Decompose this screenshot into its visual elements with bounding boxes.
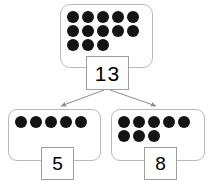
dot: [15, 116, 27, 128]
dot: [75, 116, 87, 128]
dot: [127, 25, 139, 37]
dot: [112, 11, 124, 23]
whole-number-label: 13: [86, 56, 129, 90]
dot: [178, 116, 190, 128]
whole-dot-grid: [61, 5, 152, 53]
part-right-dot-grid: [112, 110, 204, 144]
dot: [97, 25, 109, 37]
dot: [112, 25, 124, 37]
dot-row: [67, 39, 152, 51]
dot: [148, 130, 160, 142]
part-left-dot-grid: [9, 110, 100, 130]
dot: [82, 11, 94, 23]
dot: [67, 25, 79, 37]
dot: [67, 39, 79, 51]
dot: [45, 116, 57, 128]
dot: [60, 116, 72, 128]
dot-row: [118, 130, 204, 142]
dot-row: [67, 11, 152, 23]
dot: [118, 116, 130, 128]
dot: [133, 130, 145, 142]
dot-row: [118, 116, 204, 128]
part-right-number-label: 8: [144, 147, 177, 180]
number-bond-diagram: 13 5 8: [0, 0, 213, 188]
dot: [67, 11, 79, 23]
dot: [82, 25, 94, 37]
dot: [133, 116, 145, 128]
dot: [163, 116, 175, 128]
dot-row: [15, 116, 100, 128]
arrow-to-left-part: [61, 90, 104, 106]
dot: [82, 39, 94, 51]
dot: [127, 11, 139, 23]
dot: [97, 39, 109, 51]
dot-row: [67, 25, 152, 37]
dot: [30, 116, 42, 128]
part-left-number-label: 5: [41, 147, 74, 180]
dot: [118, 130, 130, 142]
dot: [97, 11, 109, 23]
arrow-to-right-part: [110, 90, 156, 106]
dot: [148, 116, 160, 128]
